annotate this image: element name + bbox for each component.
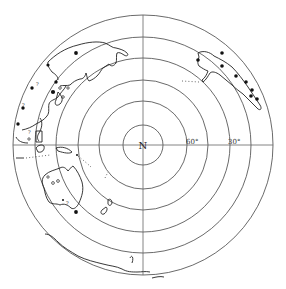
- latitude-label-30: 30°: [228, 138, 240, 146]
- latitude-label-60: 60°: [186, 138, 198, 146]
- pole-label: N: [139, 140, 148, 151]
- svg-text:?: ?: [36, 81, 39, 87]
- svg-text:?: ?: [66, 200, 69, 206]
- africa-asia: ? ? ?: [16, 42, 128, 143]
- islands: [16, 145, 108, 178]
- antarctica: [45, 234, 164, 278]
- svg-text:?: ?: [22, 102, 25, 108]
- polar-map: N 60° 30° ? ? ?: [0, 0, 286, 289]
- svg-text:?: ?: [28, 129, 31, 135]
- south-america: [182, 51, 261, 109]
- australia: ?: [42, 166, 83, 214]
